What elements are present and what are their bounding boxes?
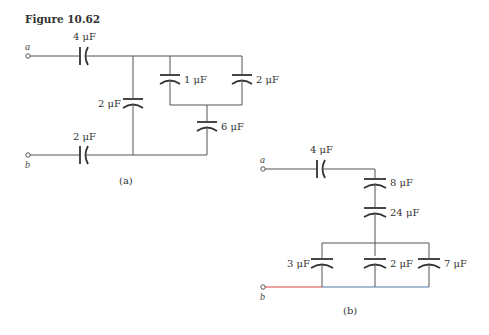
caption-b: (b)	[343, 305, 357, 316]
terminal-b-node	[26, 153, 30, 157]
terminal-a-label: a	[25, 41, 30, 52]
terminal-a-node	[26, 54, 30, 58]
terminal-a-label: a	[260, 154, 265, 165]
capacitor-label: 4 μF	[310, 144, 333, 155]
capacitor-label: 2 μF	[256, 74, 279, 85]
circuit-b: a 4 μF 8 μF 24 μF 3 μF	[260, 144, 467, 316]
capacitor-label: 3 μF	[287, 258, 310, 269]
terminal-b-label: b	[260, 291, 265, 302]
caption-a: (a)	[119, 175, 133, 186]
capacitor-label: 2 μF	[98, 98, 121, 109]
terminal-a-node	[261, 167, 265, 171]
capacitor-label: 8 μF	[390, 177, 413, 188]
figure-title: Figure 10.62	[25, 13, 100, 25]
circuit-a: a 4 μF 2 μF 1 μF	[25, 31, 279, 186]
capacitor-label: 2 μF	[73, 131, 96, 142]
terminal-b-node	[261, 285, 265, 289]
capacitor-label: 6 μF	[221, 121, 244, 132]
capacitor-label: 1 μF	[184, 74, 207, 85]
figure-canvas: Figure 10.62 a 4 μF 2 μF 1 μF	[0, 0, 489, 335]
capacitor-label: 24 μF	[390, 207, 419, 218]
capacitor-label: 7 μF	[444, 258, 467, 269]
capacitor-label: 2 μF	[390, 258, 413, 269]
terminal-b-label: b	[25, 159, 30, 170]
capacitor-label: 4 μF	[73, 31, 96, 42]
